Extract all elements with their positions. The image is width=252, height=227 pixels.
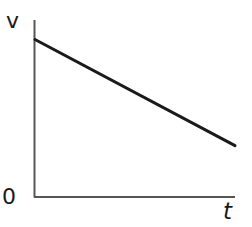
origin-label: 0 <box>2 186 16 208</box>
x-axis-label: t <box>223 200 232 223</box>
y-axis-label: v <box>6 10 19 32</box>
velocity-line <box>35 39 235 145</box>
velocity-time-chart <box>0 0 252 227</box>
